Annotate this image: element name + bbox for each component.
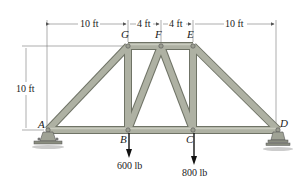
node-label-G: G [121, 28, 129, 40]
node-label-F: F [154, 28, 162, 40]
node-label-C: C [186, 133, 194, 145]
truss-diagram: 10 ft 4 ft 4 ft 10 ft 10 ft [0, 0, 308, 185]
dim-top-right: 10 ft [225, 18, 244, 29]
truss-members [48, 45, 278, 131]
dim-top-left: 10 ft [80, 18, 99, 29]
dim-top-mid-left: 4 ft [137, 18, 151, 29]
node-label-A: A [37, 118, 45, 130]
load-label-C: 800 lb [182, 167, 207, 178]
load-arrow-B [126, 133, 132, 158]
node-label-D: D [279, 117, 288, 129]
dim-top-mid-right: 4 ft [169, 18, 183, 29]
dim-height: 10 ft [16, 83, 35, 94]
node-label-B: B [120, 133, 127, 145]
pin-support-A [32, 132, 64, 149]
load-label-B: 600 lb [117, 160, 142, 171]
roller-support-D [263, 132, 293, 151]
node-label-E: E [186, 28, 194, 40]
